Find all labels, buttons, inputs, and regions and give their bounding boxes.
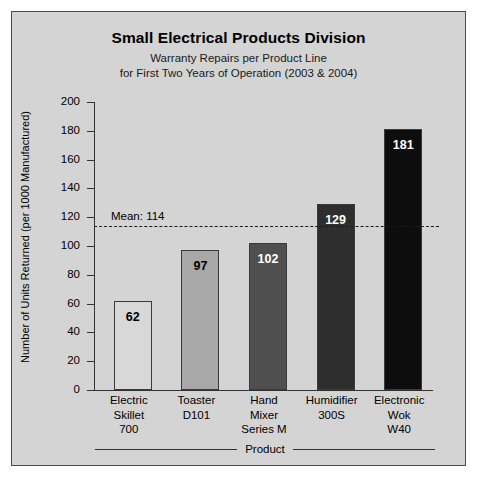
y-axis-tick-label: 60: [40, 298, 80, 310]
x-axis-category-label-line: Series M: [227, 422, 301, 437]
x-axis-category-label-line: Skillet: [92, 408, 166, 423]
x-axis-category-label-line: Hand: [227, 393, 301, 408]
bar-value-label: 97: [182, 260, 218, 273]
chart-header: Small Electrical Products Division Warra…: [12, 29, 465, 81]
mean-reference-label: Mean: 114: [111, 210, 165, 222]
x-axis-category-label-line: 700: [92, 422, 166, 437]
x-axis-category-labels: ElectricSkillet700ToasterD101HandMixerSe…: [95, 393, 433, 441]
y-axis-tick: [87, 217, 95, 218]
y-axis-title: Number of Units Returned (per 1000 Manuf…: [19, 87, 31, 387]
bar[interactable]: 181: [384, 129, 422, 390]
bar-series: 6297102129181: [95, 91, 433, 390]
x-axis-category-label: ToasterD101: [159, 393, 233, 422]
x-axis-category-label-line: D101: [159, 408, 233, 423]
x-axis-category-label-line: Electronic: [362, 393, 436, 408]
y-axis-tick: [87, 275, 95, 276]
x-axis-category-label: Humidifier300S: [295, 393, 369, 422]
x-axis-category-label-line: W40: [362, 422, 436, 437]
chart-panel: Small Electrical Products Division Warra…: [11, 11, 466, 466]
x-axis-category-label: HandMixerSeries M: [227, 393, 301, 437]
plot-area: 020406080100120140160180200 Number of Un…: [83, 91, 433, 380]
y-axis-tick: [87, 361, 95, 362]
y-axis-tick-label: 180: [40, 125, 80, 137]
y-axis-tick: [87, 332, 95, 333]
y-axis-tick: [87, 246, 95, 247]
y-axis-tick-label: 140: [40, 182, 80, 194]
x-axis-title-row: Product: [95, 443, 435, 455]
bar-value-label: 181: [385, 139, 421, 152]
y-axis-tick: [87, 188, 95, 189]
x-axis-category-label-line: Mixer: [227, 408, 301, 423]
y-axis-tick-label: 20: [40, 355, 80, 367]
bar[interactable]: 129: [317, 204, 355, 390]
y-axis-tick: [87, 304, 95, 305]
chart-subtitle-line-1: Warranty Repairs per Product Line: [12, 51, 465, 66]
x-axis-category-label-line: Humidifier: [295, 393, 369, 408]
x-axis-line: [94, 390, 433, 391]
x-axis-category-label-line: Electric: [92, 393, 166, 408]
chart-subtitle-line-2: for First Two Years of Operation (2003 &…: [12, 66, 465, 81]
bar[interactable]: 97: [181, 250, 219, 390]
y-axis-tick-label: 0: [40, 384, 80, 396]
y-axis-tick-label: 100: [40, 240, 80, 252]
x-axis-category-label-line: Wok: [362, 408, 436, 423]
y-axis-tick-label: 200: [40, 96, 80, 108]
x-axis-title-rule-left: [95, 449, 237, 450]
screenshot-root: Small Electrical Products Division Warra…: [0, 0, 481, 481]
bar-value-label: 62: [115, 311, 151, 324]
y-axis-tick-label: 160: [40, 154, 80, 166]
x-axis-category-label: ElectricSkillet700: [92, 393, 166, 437]
x-axis-title: Product: [245, 443, 285, 455]
y-axis-tick-label: 120: [40, 211, 80, 223]
bar[interactable]: 62: [114, 301, 152, 390]
x-axis-category-label-line: Toaster: [159, 393, 233, 408]
y-axis-tick: [87, 390, 95, 391]
x-axis-title-rule-right: [293, 449, 435, 450]
mean-reference-line: [94, 226, 439, 227]
bar-value-label: 102: [250, 253, 286, 266]
y-axis-tick: [87, 160, 95, 161]
x-axis-category-label: ElectronicWokW40: [362, 393, 436, 437]
bar[interactable]: 102: [249, 243, 287, 390]
chart-title: Small Electrical Products Division: [12, 29, 465, 47]
y-axis-tick-label: 40: [40, 326, 80, 338]
y-axis-tick: [87, 102, 95, 103]
y-axis-tick-label: 80: [40, 269, 80, 281]
y-axis-tick: [87, 131, 95, 132]
x-axis-category-label-line: 300S: [295, 408, 369, 423]
